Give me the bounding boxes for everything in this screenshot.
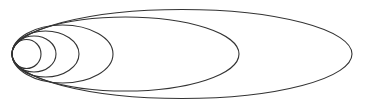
ellipse-group xyxy=(12,10,352,99)
ellipse-5 xyxy=(12,17,239,91)
nested-ellipses-diagram xyxy=(0,0,365,107)
